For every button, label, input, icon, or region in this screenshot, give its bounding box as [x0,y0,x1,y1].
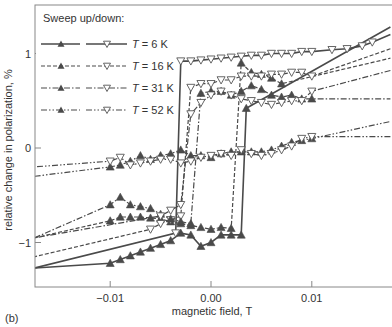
legend-label: T = 16 K [132,60,175,72]
series-t-52-k-down [35,133,391,169]
legend-label: T = 6 K [132,38,168,50]
y-tick-label: 0 [25,142,31,154]
x-tick-label: −0.01 [96,292,124,304]
y-tick-label: 1 [25,48,31,60]
legend-label: T = 31 K [132,82,175,94]
legend-title: Sweep up/down: [43,12,124,24]
panel-label: (b) [5,312,18,324]
legend-label: T = 52 K [132,104,175,116]
y-axis-label: relative change in polarization, % [2,69,14,231]
x-tick-label: 0.01 [301,292,322,304]
y-tick-label: −1 [18,237,31,249]
legend: Sweep up/down: T = 6 KT = 16 KT = 31 KT … [36,6,175,126]
x-tick-label: 0.00 [200,292,221,304]
series-t-52-k-up [35,122,391,177]
hysteresis-chart: −0.010.000.0110−1 Sweep up/down: T = 6 K… [0,0,392,327]
chart-canvas: −0.010.000.0110−1 Sweep up/down: T = 6 K… [0,0,392,327]
x-axis-label: magnetic field, T [172,305,253,317]
